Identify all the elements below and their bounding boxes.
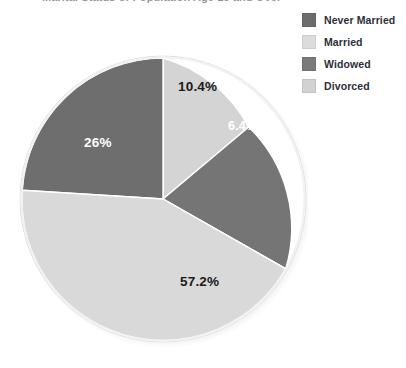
legend-swatch-divorced-icon (302, 79, 316, 93)
slice-label-never-married: 26% (84, 135, 112, 150)
legend-label-divorced: Divorced (324, 80, 370, 92)
pie-slice-never-married[interactable]: Never Married 26% (22, 58, 163, 199)
legend-label-widowed: Widowed (324, 58, 371, 70)
slice-label-widowed: 6.4% (228, 119, 257, 133)
pie-chart-svg: Divorced 10.4% Widowed 6.4% Married 57.2… (8, 45, 308, 350)
legend-item-widowed[interactable]: Widowed (302, 53, 404, 75)
slice-label-married: 57.2% (180, 274, 219, 289)
legend-item-married[interactable]: Married (302, 31, 404, 53)
legend-label-never-married: Never Married (324, 14, 395, 26)
chart-legend: Never Married Married Widowed Divorced (302, 9, 404, 97)
legend-swatch-married-icon (302, 35, 316, 49)
legend-swatch-never-married-icon (302, 13, 316, 27)
legend-item-never-married[interactable]: Never Married (302, 9, 404, 31)
legend-item-divorced[interactable]: Divorced (302, 75, 404, 97)
slice-label-divorced: 10.4% (178, 79, 217, 94)
legend-swatch-widowed-icon (302, 57, 316, 71)
legend-label-married: Married (324, 36, 363, 48)
